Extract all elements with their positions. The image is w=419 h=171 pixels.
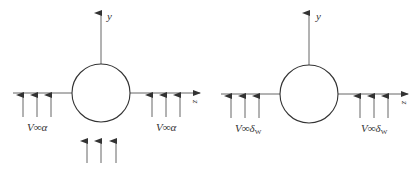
body-cross-section [280,65,338,123]
right-flow-arrows [152,95,180,117]
y-axis-label: y [106,10,112,22]
left-flow-arrows [231,96,259,118]
body-cross-section [72,64,130,122]
label-main: V∞δ [361,122,382,134]
left-flow-label: V∞α [27,121,48,133]
y-axis-label: y [315,10,321,22]
left-flow-label: V∞δW [235,122,262,136]
diagram-canvas: y z V∞α V∞α y z [0,0,419,171]
label-subscript: W [381,128,388,136]
right-flow-arrows [360,96,388,118]
left-panel: y z V∞α V∞α [13,10,201,163]
label-subscript: W [255,128,262,136]
bottom-flow-arrows [87,141,116,163]
z-axis-label: z [191,99,201,104]
right-flow-label: V∞α [156,121,177,133]
z-axis-label: z [400,100,410,105]
label-main: V∞δ [235,122,256,134]
right-panel: y z V∞δW V∞δW [221,10,410,136]
left-flow-arrows [23,95,51,117]
right-flow-label: V∞δW [361,122,388,136]
